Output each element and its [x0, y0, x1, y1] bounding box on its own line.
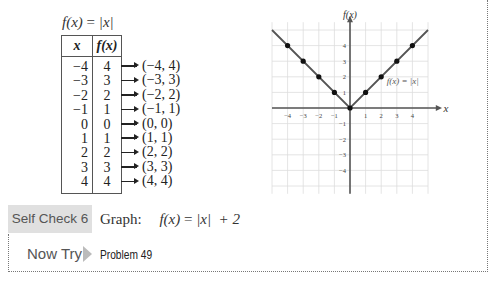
arrow-right-icon: [121, 181, 137, 183]
cell-fx: 3: [93, 161, 122, 175]
pair-text: (4, 4): [142, 174, 172, 188]
x-tick-label: −4: [284, 112, 292, 119]
now-try-label: Now Try: [27, 245, 82, 262]
data-point: [316, 74, 321, 79]
table-row: 11: [62, 132, 122, 146]
abs-value-graph: −4−3−2−112344321−1−2−3−4 f(x) x f(x) = |…: [262, 8, 462, 208]
table-row: 33: [62, 161, 122, 175]
pair-text: (1, 1): [142, 131, 172, 145]
x-tick-label: −3: [300, 112, 307, 119]
pair-row: (−4, 4): [121, 59, 180, 73]
curve-label: f(x) = |x|: [387, 76, 419, 86]
pair-row: (−3, 3): [121, 73, 180, 87]
self-check-badge: Self Check 6: [8, 205, 92, 233]
header-x: x: [62, 36, 93, 57]
table-row: −22: [62, 89, 122, 103]
function-lhs: f(x): [62, 14, 83, 30]
y-tick-label: −3: [339, 151, 346, 158]
x-tick-label: −2: [315, 112, 322, 119]
x-tick-label: 1: [364, 112, 367, 119]
expr-rhs: |x| + 2: [196, 211, 240, 227]
data-point: [363, 90, 368, 95]
cell-x: 2: [62, 146, 93, 160]
arrow-right-icon: [121, 137, 137, 139]
expr-eq: =: [184, 211, 192, 227]
arrow-right-icon: [121, 94, 137, 96]
cell-fx: 2: [93, 89, 122, 103]
x-tick-label: 2: [380, 112, 383, 119]
arrow-right-icon: [121, 80, 137, 82]
pair-row: (2, 2): [121, 145, 180, 159]
pair-text: (−1, 1): [142, 102, 180, 116]
self-check-graph-label: Graph:: [100, 211, 142, 227]
data-point: [347, 105, 352, 110]
self-check-prompt: Graph: f(x) = |x| + 2: [100, 211, 240, 228]
table-row: −44: [62, 57, 122, 75]
now-try-problem-link[interactable]: Problem 49: [100, 248, 152, 262]
arrow-right-icon: [121, 123, 137, 125]
pair-text: (0, 0): [142, 117, 172, 131]
pair-row: (3, 3): [121, 160, 180, 174]
cell-fx: 3: [93, 74, 122, 88]
x-tick-label: 4: [411, 112, 415, 119]
x-tick-label: −1: [331, 112, 338, 119]
data-point: [379, 74, 384, 79]
self-check-expression: f(x) = |x| + 2: [159, 211, 240, 227]
data-point: [332, 90, 337, 95]
x-tick-label: 3: [395, 112, 398, 119]
pair-row: (0, 0): [121, 117, 180, 131]
cell-x: −2: [62, 89, 93, 103]
expr-lhs: f(x): [159, 211, 180, 227]
cell-x: −3: [62, 74, 93, 88]
table-row: 44: [62, 175, 122, 193]
value-table: x f(x) −44 −33 −22 −11 00 11 22 33 44: [61, 35, 122, 194]
arrow-right-icon: [121, 65, 137, 67]
cell-x: −4: [62, 57, 93, 75]
data-point: [285, 43, 290, 48]
table-row: 22: [62, 146, 122, 160]
pair-text: (3, 3): [142, 160, 172, 174]
y-tick-label: 2: [343, 73, 346, 80]
pair-row: (−1, 1): [121, 102, 180, 116]
pair-text: (−2, 2): [142, 88, 180, 102]
pair-row: (1, 1): [121, 131, 180, 145]
cell-x: −1: [62, 103, 93, 117]
y-tick-label: −1: [339, 120, 346, 127]
cell-x: 1: [62, 132, 93, 146]
x-axis-label: x: [443, 102, 449, 114]
cell-fx: 2: [93, 146, 122, 160]
data-point: [301, 59, 306, 64]
y-tick-label: −2: [339, 136, 346, 143]
pair-text: (−4, 4): [142, 59, 180, 73]
panel-border-bottom: [8, 271, 488, 272]
header-fx: f(x): [93, 36, 122, 57]
ordered-pairs: (−4, 4) (−3, 3) (−2, 2) (−1, 1) (0, 0) (…: [121, 59, 180, 189]
cell-x: 3: [62, 161, 93, 175]
pair-text: (−3, 3): [142, 73, 180, 87]
cell-fx: 4: [93, 175, 122, 193]
function-label: f(x) = |x|: [62, 14, 114, 31]
y-tick-label: −4: [339, 167, 347, 174]
panel-border-left: [8, 234, 9, 272]
cell-fx: 4: [93, 57, 122, 75]
data-point: [394, 59, 399, 64]
cell-fx: 1: [93, 103, 122, 117]
cell-x: 0: [62, 118, 93, 132]
pair-text: (2, 2): [142, 145, 172, 159]
pair-row: (4, 4): [121, 174, 180, 188]
data-point: [410, 43, 415, 48]
table-row: −33: [62, 74, 122, 88]
arrow-right-icon: [121, 109, 137, 111]
cell-fx: 0: [93, 118, 122, 132]
function-rhs: |x|: [99, 14, 114, 30]
play-arrow-icon: [83, 246, 92, 262]
y-axis-label: f(x): [343, 9, 358, 21]
table-row: 00: [62, 118, 122, 132]
cell-fx: 1: [93, 132, 122, 146]
panel-border-right: [487, 0, 488, 272]
cell-x: 4: [62, 175, 93, 193]
arrow-right-icon: [121, 152, 137, 154]
function-eq: =: [87, 14, 95, 30]
pair-row: (−2, 2): [121, 88, 180, 102]
y-tick-label: 3: [343, 58, 346, 65]
